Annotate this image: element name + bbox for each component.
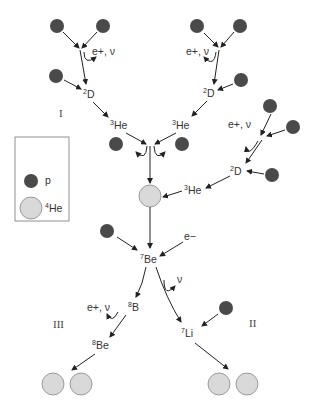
helium4-nucleus — [208, 373, 230, 395]
arrow — [261, 114, 271, 135]
helium3-label: 3He — [172, 119, 189, 131]
emission-label: e+, ν — [87, 301, 110, 313]
helium4-nucleus — [236, 373, 258, 395]
legend-helium4-icon — [20, 197, 42, 219]
deuterium-label: 2D — [83, 88, 95, 100]
proton — [49, 69, 63, 83]
neutrino-label: ν — [177, 273, 182, 285]
helium4-nucleus — [70, 373, 92, 395]
proton — [109, 137, 123, 151]
arrow — [117, 237, 137, 250]
arrow — [221, 32, 234, 47]
deuterium-label: 2D — [203, 87, 215, 99]
proton — [233, 19, 247, 33]
emission-label: e+, ν — [228, 118, 251, 130]
legend-proton-icon — [24, 174, 38, 188]
helium4-nucleus — [139, 185, 161, 207]
arrow — [218, 84, 233, 90]
proton — [263, 99, 277, 113]
helium3-label: 3He — [110, 119, 127, 131]
lithium7-label: 7Li — [181, 327, 193, 339]
deuterium-label: 2D — [230, 165, 242, 177]
helium4-nucleus — [42, 373, 64, 395]
emission-arrow — [246, 141, 258, 151]
arrow — [72, 354, 95, 370]
proton — [100, 224, 114, 238]
proton — [265, 168, 279, 182]
beryllium8-label: 8Be — [92, 339, 109, 351]
boron8-label: 8B — [128, 301, 139, 313]
branch-label-II: II — [249, 317, 257, 329]
arrow — [247, 171, 264, 174]
proton-release-arrow — [136, 146, 147, 156]
proton — [96, 19, 110, 33]
emission-arrow — [164, 280, 175, 291]
arrow — [214, 50, 219, 84]
arrow — [160, 242, 183, 256]
pp-chain-diagram: e+, ν 2D I 3He e+, ν 2D 3He e+, ν 2D 3He… — [0, 0, 314, 411]
arrow — [206, 176, 230, 188]
branch-label-I: I — [59, 107, 63, 119]
emission-label: e+, ν — [92, 45, 115, 57]
electron-label: e− — [184, 230, 196, 242]
arrow — [163, 191, 182, 197]
helium3-label: 3He — [184, 184, 201, 196]
proton — [234, 73, 248, 87]
emission-label: e+, ν — [186, 45, 209, 57]
proton — [219, 301, 233, 315]
arrow — [195, 343, 228, 369]
arrow — [126, 133, 146, 144]
proton — [190, 19, 204, 33]
arrow — [267, 130, 285, 136]
arrow — [64, 80, 81, 89]
arrow — [63, 32, 79, 48]
proton — [50, 19, 64, 33]
arrow — [80, 50, 86, 84]
arrow — [136, 267, 146, 297]
arrow — [192, 101, 207, 116]
arrow — [202, 314, 218, 326]
proton — [175, 137, 189, 151]
arrow — [155, 133, 176, 144]
arrow — [93, 102, 108, 117]
legend-proton-label: p — [45, 174, 51, 186]
proton — [286, 120, 300, 134]
beryllium7-label: 7Be — [140, 253, 157, 265]
proton-release-arrow — [154, 146, 165, 156]
branch-label-III: III — [53, 318, 64, 330]
